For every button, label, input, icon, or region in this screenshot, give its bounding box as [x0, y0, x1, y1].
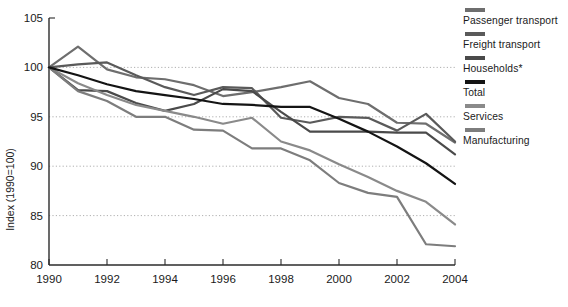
legend-label-households: Households*: [463, 63, 568, 75]
series-line-total: [49, 67, 455, 184]
y-tick-label: 85: [30, 210, 43, 222]
legend-swatch-total: [465, 80, 485, 84]
series-line-manufacturing: [49, 67, 455, 246]
series-line-passenger-transport: [49, 47, 455, 143]
x-tick-label: 1990: [36, 273, 62, 285]
chart-container: 1051009590858019901992199419961998200020…: [0, 0, 568, 307]
legend-label-total: Total: [463, 87, 568, 99]
legend-swatch-freight-transport: [465, 32, 485, 36]
legend-swatch-services: [465, 104, 485, 108]
x-tick-label: 2004: [442, 273, 468, 285]
series-line-households: [49, 67, 455, 154]
legend-swatch-manufacturing: [465, 128, 485, 132]
legend-swatch-households: [465, 56, 485, 60]
legend-item-passenger-transport[interactable]: Passenger transport: [463, 8, 568, 27]
x-tick-label: 1992: [94, 273, 120, 285]
x-tick-label: 2000: [326, 273, 352, 285]
x-tick-label: 1996: [210, 273, 236, 285]
y-tick-label: 105: [24, 12, 43, 24]
x-tick-label: 2002: [384, 273, 410, 285]
legend-item-households[interactable]: Households*: [463, 56, 568, 75]
y-tick-label: 90: [30, 160, 43, 172]
legend-item-manufacturing[interactable]: Manufacturing: [463, 128, 568, 147]
legend-label-services: Services: [463, 111, 568, 123]
legend-label-passenger-transport: Passenger transport: [463, 15, 568, 27]
legend-swatch-passenger-transport: [465, 8, 485, 12]
y-tick-label: 80: [30, 259, 43, 271]
legend-item-freight-transport[interactable]: Freight transport: [463, 32, 568, 51]
x-tick-label: 1998: [268, 273, 294, 285]
y-tick-label: 100: [24, 61, 43, 73]
chart-legend: Passenger transport Freight transport Ho…: [463, 8, 568, 152]
y-tick-label: 95: [30, 111, 43, 123]
legend-item-services[interactable]: Services: [463, 104, 568, 123]
legend-label-freight-transport: Freight transport: [463, 39, 568, 51]
x-tick-label: 1994: [152, 273, 178, 285]
legend-label-manufacturing: Manufacturing: [463, 135, 568, 147]
y-axis-title: Index (1990=100): [4, 148, 16, 231]
legend-item-total[interactable]: Total: [463, 80, 568, 99]
